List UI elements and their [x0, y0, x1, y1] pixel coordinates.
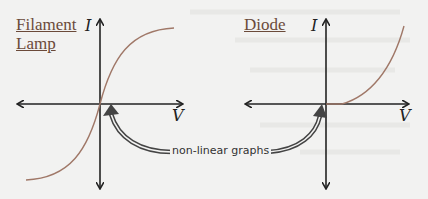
- diode-y-axis-label: I: [311, 16, 317, 35]
- diode-graph: [246, 20, 408, 188]
- diode-x-axis-label: V: [399, 106, 411, 125]
- filament-y-axis-label: I: [85, 16, 91, 35]
- title-line-1: Filament: [16, 15, 76, 34]
- non-linear-annotation: non-linear graphs: [170, 144, 271, 157]
- diode-title: Diode: [244, 15, 286, 34]
- filament-lamp-title: Filament Lamp: [16, 15, 76, 53]
- diode-curve: [342, 26, 404, 104]
- title-line-2: Lamp: [16, 34, 76, 53]
- filament-x-axis-label: V: [172, 106, 184, 125]
